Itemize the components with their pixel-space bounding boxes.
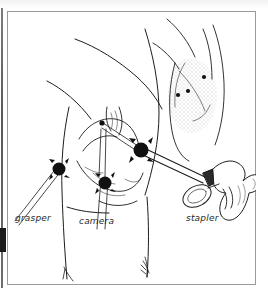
figure-root: grasper camera stapler [0,0,268,295]
inset-chest-wall [153,19,224,161]
port-upper-small [99,120,104,125]
port-stapler [129,137,154,163]
lower-drape-detail [63,257,149,281]
label-grasper: grasper [15,213,51,223]
chest-contour [77,107,143,206]
label-stapler: stapler [186,213,219,223]
illustration-canvas [7,11,256,285]
scan-blot-artifact [0,228,6,252]
trocar-ports [49,137,154,194]
port-grasper [49,158,70,180]
scan-top-tone [0,0,268,9]
angled-probe [102,123,138,151]
port-camera [95,172,116,194]
label-camera: camera [79,216,114,226]
